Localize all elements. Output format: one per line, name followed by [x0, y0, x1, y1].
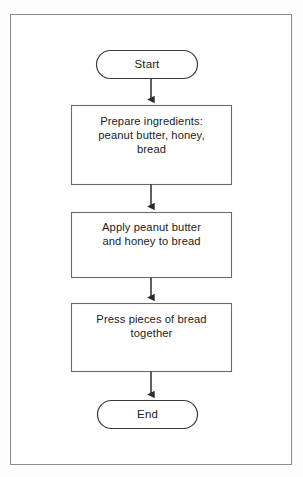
- start-terminator-shape: [97, 51, 198, 79]
- step1-process-shape: [72, 106, 232, 185]
- end-terminator-shape: [98, 401, 198, 429]
- step2-process-shape: [72, 213, 232, 278]
- flowchart-shapes-layer: [0, 0, 303, 477]
- step3-process-shape: [72, 304, 232, 372]
- flowchart-canvas: Start Prepare ingredients: peanut butter…: [0, 0, 303, 477]
